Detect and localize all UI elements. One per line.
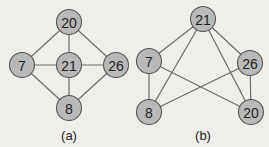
node-label: 7 bbox=[18, 58, 26, 74]
node-label: 21 bbox=[195, 12, 211, 28]
node-21: 21 bbox=[191, 7, 216, 32]
node-label: 20 bbox=[61, 15, 77, 31]
graph-figure: 20721268(a)21726820(b) bbox=[0, 0, 269, 147]
node-label: 7 bbox=[145, 54, 153, 70]
node-20: 20 bbox=[239, 100, 264, 125]
node-26: 26 bbox=[238, 51, 263, 76]
node-label: 26 bbox=[242, 56, 258, 72]
node-label: 8 bbox=[145, 105, 153, 121]
edge-26-8 bbox=[149, 63, 250, 112]
node-21: 21 bbox=[57, 53, 82, 78]
node-label: 26 bbox=[108, 58, 124, 74]
node-label: 8 bbox=[65, 101, 73, 117]
graph-caption: (b) bbox=[195, 128, 211, 143]
graph-caption: (a) bbox=[61, 128, 77, 143]
node-20: 20 bbox=[57, 10, 82, 35]
node-label: 20 bbox=[243, 105, 259, 121]
node-26: 26 bbox=[104, 53, 129, 78]
node-7: 7 bbox=[10, 53, 35, 78]
graph-svg: 20721268(a)21726820(b) bbox=[0, 0, 269, 147]
node-7: 7 bbox=[137, 49, 162, 74]
node-label: 21 bbox=[61, 58, 77, 74]
node-8: 8 bbox=[137, 100, 162, 125]
graph-b: 21726820(b) bbox=[137, 7, 264, 144]
node-8: 8 bbox=[57, 96, 82, 121]
graph-a: 20721268(a) bbox=[10, 10, 129, 144]
